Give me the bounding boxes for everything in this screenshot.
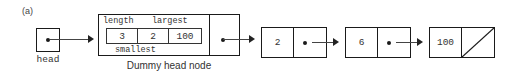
arrow-node2-to-node3-line	[396, 42, 418, 43]
pointer-dot-icon	[387, 41, 391, 45]
arrow-dummy-to-node1-line	[223, 39, 250, 40]
arrow-dummy-to-node1-tip	[249, 35, 255, 43]
arrow-node1-to-node2-tip	[333, 38, 339, 46]
arrow-head-to-dummy-line	[50, 39, 90, 40]
node-next-cell	[462, 28, 494, 57]
list-node: 100	[429, 27, 495, 58]
field-caption-smallest: smallest	[115, 45, 156, 55]
field-caption-length: length	[103, 16, 134, 26]
pointer-dot-icon	[303, 41, 307, 45]
linked-list-diagram: (a) head length largest smallest 3 2 100…	[0, 0, 512, 84]
dummy-head-node-caption: Dummy head node	[98, 60, 240, 71]
panel-label: (a)	[22, 6, 33, 16]
field-caption-largest: largest	[152, 16, 188, 26]
field-value-largest: 100	[169, 29, 201, 43]
node-value: 2	[262, 28, 294, 57]
dummy-head-node-divider	[209, 14, 210, 56]
field-value-smallest: 2	[138, 29, 169, 43]
arrow-node1-to-node2-line	[312, 42, 334, 43]
field-value-length: 3	[107, 29, 138, 43]
head-pointer-label: head	[30, 54, 66, 65]
node-value: 100	[430, 28, 462, 57]
null-slash-icon	[462, 28, 494, 57]
node-value: 6	[346, 28, 378, 57]
arrow-head-to-dummy-tip	[88, 35, 94, 43]
dummy-head-field-table: 3 2 100	[106, 28, 202, 44]
arrow-node2-to-node3-tip	[417, 38, 423, 46]
